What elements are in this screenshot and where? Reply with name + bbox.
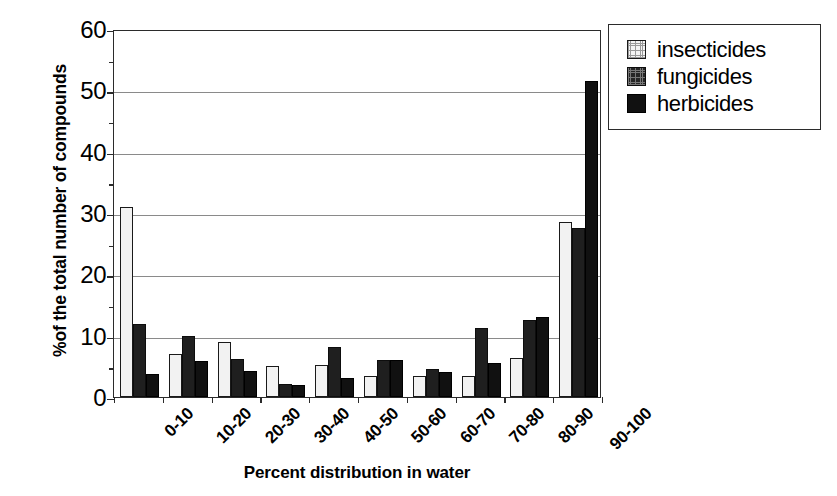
bar-herbicides-90-100[interactable] bbox=[585, 81, 598, 397]
legend-item-herbicides[interactable]: herbicides bbox=[627, 90, 810, 117]
x-tick-label: 0-10 bbox=[161, 404, 198, 441]
bar-group bbox=[462, 31, 501, 397]
bar-insecticides-80-90[interactable] bbox=[510, 358, 523, 397]
y-tick-label: 20 bbox=[46, 263, 106, 287]
bar-herbicides-40-50[interactable] bbox=[341, 378, 354, 397]
legend-item-fungicides[interactable]: fungicides bbox=[627, 63, 810, 90]
legend-label: fungicides bbox=[657, 66, 752, 88]
y-tick-label: 50 bbox=[46, 79, 106, 103]
y-tick-mark bbox=[107, 31, 114, 32]
y-tick-mark bbox=[107, 215, 114, 216]
bar-insecticides-40-50[interactable] bbox=[315, 365, 328, 397]
bar-fungicides-10-20[interactable] bbox=[182, 336, 195, 397]
x-tick-label: 50-60 bbox=[408, 404, 452, 448]
x-axis-tick-labels: 0-1010-2020-3030-4040-5050-6060-7070-808… bbox=[113, 398, 601, 468]
bar-insecticides-90-100[interactable] bbox=[559, 222, 572, 397]
bar-fungicides-20-30[interactable] bbox=[231, 359, 244, 397]
y-tick-label: 10 bbox=[46, 325, 106, 349]
x-tick-label: 60-70 bbox=[456, 404, 500, 448]
x-tick-label: 70-80 bbox=[505, 404, 549, 448]
x-tick-label: 40-50 bbox=[359, 404, 403, 448]
bar-insecticides-10-20[interactable] bbox=[169, 354, 182, 397]
bar-insecticides-0-10[interactable] bbox=[120, 207, 133, 397]
bar-group bbox=[315, 31, 354, 397]
x-tick-mark bbox=[602, 397, 603, 403]
y-tick-label: 0 bbox=[46, 386, 106, 410]
x-tick-label: 10-20 bbox=[212, 404, 256, 448]
bar-group bbox=[510, 31, 549, 397]
bar-insecticides-30-40[interactable] bbox=[266, 366, 279, 397]
y-tick-mark bbox=[107, 276, 114, 277]
legend: insecticidesfungicidesherbicides bbox=[608, 24, 821, 130]
bar-group bbox=[120, 31, 159, 397]
bar-fungicides-80-90[interactable] bbox=[523, 320, 536, 397]
bar-fungicides-40-50[interactable] bbox=[328, 347, 341, 397]
bar-group bbox=[218, 31, 257, 397]
y-tick-label: 30 bbox=[46, 202, 106, 226]
bar-insecticides-50-60[interactable] bbox=[364, 376, 377, 397]
bar-fungicides-70-80[interactable] bbox=[475, 328, 488, 397]
bar-chart-figure: %of the total number of compounds 010203… bbox=[0, 0, 837, 496]
bar-fungicides-90-100[interactable] bbox=[572, 228, 585, 397]
x-tick-label: 90-100 bbox=[606, 404, 656, 454]
y-axis-tick-labels: 0102030405060 bbox=[46, 30, 106, 398]
bar-group bbox=[364, 31, 403, 397]
bar-herbicides-10-20[interactable] bbox=[195, 361, 208, 397]
y-tick-mark bbox=[107, 154, 114, 155]
bar-fungicides-60-70[interactable] bbox=[426, 369, 439, 397]
legend-label: herbicides bbox=[657, 93, 753, 115]
bar-insecticides-20-30[interactable] bbox=[218, 342, 231, 397]
bar-fungicides-30-40[interactable] bbox=[279, 384, 292, 397]
bar-group bbox=[413, 31, 452, 397]
x-axis-title: Percent distribution in water bbox=[113, 463, 601, 483]
x-tick-label: 30-40 bbox=[310, 404, 354, 448]
bar-group bbox=[266, 31, 305, 397]
x-tick-label: 80-90 bbox=[554, 404, 598, 448]
bar-group bbox=[169, 31, 208, 397]
legend-swatch-icon bbox=[627, 40, 646, 59]
bar-fungicides-50-60[interactable] bbox=[377, 360, 390, 397]
bar-herbicides-20-30[interactable] bbox=[244, 371, 257, 397]
bar-fungicides-0-10[interactable] bbox=[133, 324, 146, 397]
legend-swatch-icon bbox=[627, 67, 646, 86]
bar-group bbox=[559, 31, 598, 397]
bar-herbicides-60-70[interactable] bbox=[439, 372, 452, 397]
x-tick-label: 20-30 bbox=[261, 404, 305, 448]
plot-area bbox=[113, 30, 601, 398]
bar-herbicides-50-60[interactable] bbox=[390, 360, 403, 397]
bar-herbicides-30-40[interactable] bbox=[292, 385, 305, 397]
bar-herbicides-70-80[interactable] bbox=[488, 363, 501, 397]
bar-insecticides-60-70[interactable] bbox=[413, 376, 426, 397]
legend-label: insecticides bbox=[657, 39, 766, 61]
bar-insecticides-70-80[interactable] bbox=[462, 376, 475, 397]
legend-item-insecticides[interactable]: insecticides bbox=[627, 36, 810, 63]
bar-herbicides-0-10[interactable] bbox=[146, 374, 159, 397]
y-tick-mark bbox=[107, 92, 114, 93]
bars-layer bbox=[114, 31, 600, 397]
y-tick-label: 60 bbox=[46, 18, 106, 42]
y-tick-mark bbox=[107, 338, 114, 339]
bar-herbicides-80-90[interactable] bbox=[536, 317, 549, 397]
legend-swatch-icon bbox=[627, 94, 646, 113]
y-tick-label: 40 bbox=[46, 141, 106, 165]
